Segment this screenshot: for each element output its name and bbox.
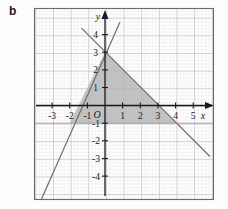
y-tick-label: -2 <box>92 136 100 146</box>
x-tick-label: -2 <box>66 111 74 121</box>
y-tick-label: -3 <box>92 154 100 164</box>
y-tick-label: 2 <box>93 65 98 75</box>
figure-panel: b <box>0 0 228 209</box>
x-tick-label: 2 <box>138 111 143 121</box>
origin-label: O <box>93 109 100 120</box>
x-tick-label: 1 <box>120 111 125 121</box>
x-tick-label: -1 <box>83 111 91 121</box>
x-axis-label: x <box>200 110 206 121</box>
y-tick-label: 3 <box>93 48 98 58</box>
y-axis-label: y <box>95 11 101 22</box>
y-tick-label: -1 <box>92 119 100 129</box>
x-tick-label: 3 <box>156 111 161 121</box>
y-tick-label: 1 <box>93 83 98 93</box>
x-tick-label: 4 <box>173 111 178 121</box>
coordinate-plot: -3 -2 -1 1 2 3 4 5 4 3 2 1 -1 -2 -3 -4 O… <box>0 0 228 209</box>
x-tick-label: -3 <box>48 111 56 121</box>
x-tick-label: 5 <box>191 111 196 121</box>
y-tick-label: -4 <box>92 172 100 182</box>
y-tick-label: 4 <box>93 30 98 40</box>
